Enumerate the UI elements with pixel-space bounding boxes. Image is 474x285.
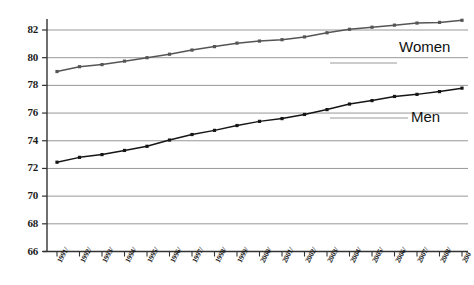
data-point-men <box>370 99 373 102</box>
y-tick-label: 78 <box>12 78 38 90</box>
data-point-women <box>190 48 193 51</box>
data-point-women <box>325 31 328 34</box>
data-point-men <box>55 161 58 164</box>
data-point-men <box>145 145 148 148</box>
data-point-men <box>235 124 238 127</box>
data-point-men <box>415 93 418 96</box>
y-tick-label: 82 <box>12 23 38 35</box>
data-point-women <box>78 65 81 68</box>
y-tick-label: 76 <box>12 106 38 118</box>
data-point-women <box>280 38 283 41</box>
data-point-men <box>100 153 103 156</box>
y-tick-label: 74 <box>12 134 38 146</box>
line-chart: 828078767472706866 1991/1992/1993/1994/1… <box>0 0 474 285</box>
data-point-women <box>213 45 216 48</box>
data-point-women <box>258 39 261 42</box>
data-point-men <box>258 120 261 123</box>
data-point-men <box>438 90 441 93</box>
data-point-men <box>280 117 283 120</box>
data-point-women <box>303 35 306 38</box>
series-label-women: Women <box>399 38 450 55</box>
y-tick-label: 66 <box>12 245 38 257</box>
data-point-women <box>370 26 373 29</box>
data-point-men <box>168 138 171 141</box>
series-label-men: Men <box>411 108 440 125</box>
data-point-men <box>460 87 463 90</box>
data-point-women <box>145 56 148 59</box>
y-tick-label: 70 <box>12 189 38 201</box>
data-point-women <box>460 19 463 22</box>
data-point-women <box>438 21 441 24</box>
data-point-women <box>100 63 103 66</box>
y-tick-label: 68 <box>12 217 38 229</box>
data-point-men <box>190 133 193 136</box>
data-point-women <box>123 60 126 63</box>
data-point-women <box>415 21 418 24</box>
y-tick-label: 72 <box>12 161 38 173</box>
data-point-men <box>78 156 81 159</box>
y-tick-label: 80 <box>12 51 38 63</box>
data-point-women <box>393 24 396 27</box>
series-line-men <box>57 88 462 162</box>
data-point-men <box>348 102 351 105</box>
data-point-men <box>123 149 126 152</box>
y-axis-ticks <box>42 30 47 252</box>
data-point-women <box>55 70 58 73</box>
data-point-men <box>325 108 328 111</box>
annotation-leader-lines <box>330 63 408 118</box>
data-point-men <box>303 113 306 116</box>
data-point-women <box>348 28 351 31</box>
data-point-women <box>235 42 238 45</box>
data-point-men <box>393 95 396 98</box>
data-point-women <box>168 53 171 56</box>
data-point-men <box>213 129 216 132</box>
